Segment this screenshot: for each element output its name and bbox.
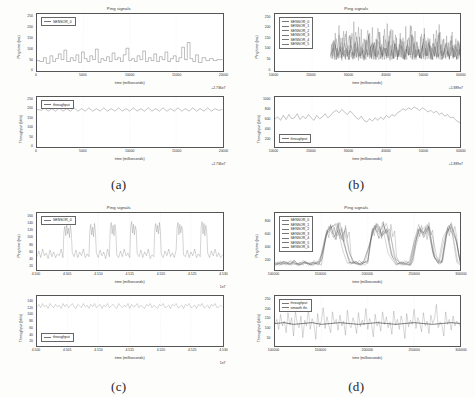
y-tick: 250 — [265, 15, 271, 19]
legend-label: SENSOR_0 — [53, 20, 72, 24]
y-tick: 100 — [27, 47, 33, 51]
panel-b: Ping signals Ping time (ms) 0 50 100 150… — [238, 0, 475, 199]
legend-item: SENSOR_5 — [282, 42, 310, 46]
legend-line-icon — [44, 104, 51, 105]
plot-area: SENSOR_0 SENSOR_1 SENSOR_2 SENSOR_3 SENS… — [274, 13, 462, 72]
legend-line-icon — [282, 30, 289, 31]
legend-item: throughput — [282, 301, 308, 305]
legend-item: SENSOR_5 — [282, 241, 310, 245]
legend: throughput — [41, 100, 74, 109]
legend-line-icon — [44, 220, 51, 221]
y-tick: 800 — [265, 219, 271, 223]
x-tick: 4.515 — [126, 348, 135, 352]
x-tick-labels: 10000 20000 30000 40000 50000 60000 — [274, 149, 462, 155]
y-tick: 200 — [27, 25, 33, 29]
panel-c-throughput-subplot: Throughput (kb/s) 20 40 60 80 100 120 14… — [6, 293, 232, 363]
x-tick: 15000 — [172, 73, 181, 77]
legend-label: SENSOR_3 — [291, 232, 310, 236]
x-tick: 4.530 — [219, 272, 228, 276]
y-tick: 80 — [29, 243, 33, 247]
panel-c: Ping signals Ping time (ms) 20 40 60 80 … — [0, 199, 238, 397]
y-tick: 200 — [265, 307, 271, 311]
panel-c-ping-subplot: Ping signals Ping time (ms) 20 40 60 80 … — [6, 205, 232, 287]
x-tick: 150000 — [315, 348, 326, 352]
panel-d: Ping signals Ping time (ms) 200 400 600 … — [238, 199, 475, 397]
x-tick: 20000 — [219, 149, 228, 153]
panel-caption: (a) — [0, 177, 238, 193]
x-tick: 10000 — [125, 73, 134, 77]
y-tick-labels: 50 100 150 200 250 — [244, 295, 273, 347]
legend-line-icon — [282, 303, 289, 304]
y-tick: 100 — [265, 326, 271, 330]
y-tick: 80 — [29, 319, 33, 323]
legend-line-icon — [282, 138, 289, 139]
y-tick-labels: 0 50 100 150 200 250 — [6, 13, 35, 72]
x-tick-labels: 10000 20000 30000 40000 50000 60000 — [274, 73, 462, 79]
y-tick: 50 — [267, 57, 271, 61]
y-tick: 120 — [27, 306, 33, 310]
y-tick: 50 — [29, 135, 33, 139]
x-tick: 4.505 — [63, 348, 72, 352]
x-tick: 50000 — [419, 73, 428, 77]
y-tick: 400 — [265, 127, 271, 131]
panel-b-throughput-subplot: Throughput (kb/s) 200 400 600 800 1000 — [244, 94, 470, 164]
legend-item: SENSOR_1 — [282, 24, 310, 28]
legend-item: throughput — [44, 335, 70, 339]
legend-line-icon — [282, 242, 289, 243]
legend-line-icon — [282, 26, 289, 27]
legend-item: SENSOR_4 — [282, 38, 310, 42]
legend-item: SENSOR_0 — [282, 20, 310, 24]
y-tick: 250 — [265, 297, 271, 301]
legend-label: throughput — [53, 103, 70, 107]
legend-line-icon — [282, 247, 289, 248]
panel-caption: (b) — [238, 177, 475, 193]
x-tick: 4.505 — [63, 272, 72, 276]
x-tick: 4.500 — [32, 348, 41, 352]
x-tick: 200000 — [362, 272, 373, 276]
x-tick: 4.530 — [219, 348, 228, 352]
y-tick-labels: 20 40 60 80 100 120 140 — [6, 295, 35, 347]
y-tick-labels: 200 400 600 800 — [244, 212, 273, 271]
panel-a-ping-subplot: Ping signals Ping time (ms) 0 50 100 150… — [6, 6, 232, 88]
panel-b-ping-subplot: Ping signals Ping time (ms) 0 50 100 150… — [244, 6, 470, 88]
plot-title: Ping signals — [6, 205, 232, 210]
y-tick: 60 — [29, 250, 33, 254]
legend-item: SENSOR_0 — [44, 218, 72, 222]
x-tick-labels: 0 5000 10000 15000 20000 — [36, 73, 224, 79]
legend-line-icon — [282, 220, 289, 221]
gridlines — [83, 97, 176, 147]
panel-b-figure: Ping signals Ping time (ms) 0 50 100 150… — [244, 6, 470, 161]
x-tick: 300000 — [455, 272, 466, 276]
x-axis-label: time (milliseconds) — [36, 81, 224, 85]
x-axis-label: time (milliseconds) — [36, 356, 224, 360]
legend-item: SENSOR_2 — [282, 227, 310, 231]
plot-area: throughput smooth thr. — [274, 295, 462, 347]
y-tick: 100 — [265, 46, 271, 50]
x-tick: 4.510 — [94, 272, 103, 276]
legend-line-icon — [44, 21, 51, 22]
x-tick-labels: 100000 150000 200000 250000 300000 — [274, 348, 462, 354]
x-tick: 20000 — [306, 73, 315, 77]
legend-label: SENSOR_6 — [291, 245, 310, 249]
x-axis-offset: +2.736e7 — [211, 162, 225, 166]
panel-caption: (d) — [238, 379, 475, 395]
x-axis-label: time (milliseconds) — [274, 157, 462, 161]
y-tick: 100 — [27, 125, 33, 129]
legend-label: SENSOR_3 — [291, 33, 310, 37]
y-tick: 600 — [265, 232, 271, 236]
throughput-trace — [275, 107, 461, 123]
x-tick: 40000 — [381, 149, 390, 153]
y-tick: 0 — [269, 68, 271, 72]
plot-area: SENSOR_0 — [36, 212, 224, 271]
y-tick: 200 — [265, 137, 271, 141]
y-tick: 200 — [265, 25, 271, 29]
x-tick: 30000 — [344, 73, 353, 77]
x-tick: 100000 — [268, 348, 279, 352]
legend-label: SENSOR_2 — [291, 29, 310, 33]
panel-caption: (c) — [0, 379, 238, 395]
gridlines — [68, 296, 191, 346]
x-axis-offset: +2.736e7 — [211, 86, 225, 90]
legend-label: throughput — [291, 137, 308, 141]
y-tick: 50 — [267, 336, 271, 340]
x-tick-labels: 4.500 4.505 4.510 4.515 4.520 4.525 4.53… — [36, 272, 224, 278]
